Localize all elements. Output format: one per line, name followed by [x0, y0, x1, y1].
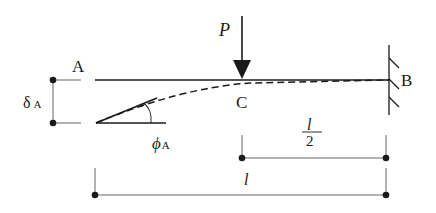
deflection-symbol: δ — [23, 94, 31, 111]
rotation-symbol: ϕ — [152, 134, 161, 153]
label-point-a: A — [72, 58, 84, 75]
label-full-length: l — [244, 172, 248, 188]
half-length-dimension — [239, 135, 390, 161]
label-load-p: P — [219, 21, 230, 39]
label-deflection: δA — [23, 95, 42, 111]
label-half-length-numerator: l — [307, 117, 311, 133]
fixed-support-icon — [389, 45, 399, 115]
full-length-dimension — [92, 168, 390, 198]
label-point-c: C — [236, 94, 247, 111]
tangent-line — [96, 98, 157, 123]
deflection-dimension — [50, 77, 81, 127]
label-half-length-denominator: 2 — [306, 134, 314, 149]
diagram-canvas — [0, 0, 436, 213]
load-arrow-icon — [233, 16, 251, 79]
label-rotation: ϕA — [152, 135, 170, 152]
rotation-arc-icon — [141, 104, 151, 123]
rotation-subscript: A — [162, 139, 170, 151]
cantilever-beam-diagram: A B C P δA ϕA l 2 l — [0, 0, 436, 213]
deflection-subscript: A — [34, 98, 42, 110]
label-point-b: B — [401, 72, 412, 89]
